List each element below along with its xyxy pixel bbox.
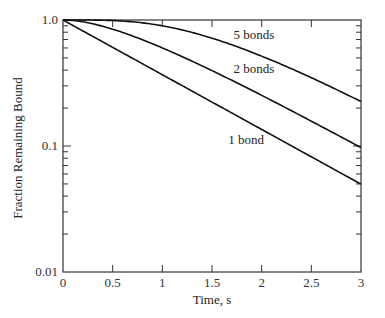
axis-labels: 00.511.522.530.010.11.05 bonds2 bonds1 b…: [35, 12, 364, 290]
series-label-1-bond: 1 bond: [228, 132, 264, 147]
data-series: [63, 20, 361, 184]
y-tick-label: 0.01: [35, 264, 58, 279]
series-5-bonds: [63, 20, 361, 102]
series-1-bond: [63, 20, 361, 184]
x-tick-label: 2: [258, 275, 265, 290]
x-tick-label: 1.5: [204, 275, 220, 290]
x-tick-label: 3: [358, 275, 365, 290]
axis-ticks: [63, 20, 361, 272]
x-tick-label: 1: [159, 275, 166, 290]
plot-area: [63, 20, 361, 272]
x-tick-label: 0.5: [105, 275, 121, 290]
x-tick-label: 0: [60, 275, 67, 290]
series-label-5-bonds: 5 bonds: [234, 27, 275, 42]
y-tick-label: 0.1: [42, 138, 58, 153]
y-tick-label: 1.0: [42, 12, 58, 27]
series-2-bonds: [63, 20, 361, 148]
x-axis-title: Time, s: [193, 292, 232, 307]
line-chart: 00.511.522.530.010.11.05 bonds2 bonds1 b…: [0, 0, 385, 318]
y-axis-title: Fraction Remaining Bound: [10, 77, 25, 219]
series-label-2-bonds: 2 bonds: [234, 61, 275, 76]
plot-border: [63, 20, 361, 272]
x-tick-label: 2.5: [303, 275, 319, 290]
